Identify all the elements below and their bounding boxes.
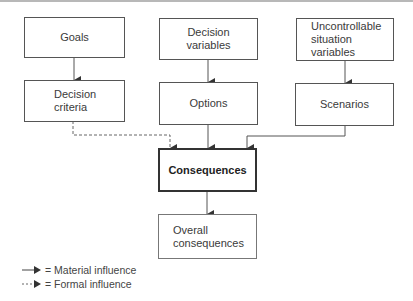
node-consequences-label: Consequences xyxy=(168,164,246,177)
legend-formal: = Formal influence xyxy=(22,278,132,290)
node-uncontrollable-situation-variables: Uncontrollable situation variables xyxy=(296,18,394,61)
node-goals: Goals xyxy=(24,17,125,58)
node-options: Options xyxy=(159,82,258,125)
material-arrow-icon xyxy=(22,265,42,275)
node-options-label: Options xyxy=(190,97,228,110)
node-overall-consequences-label: Overall consequences xyxy=(173,224,244,250)
legend-formal-label: = Formal influence xyxy=(45,278,132,290)
node-overall-consequences: Overall consequences xyxy=(158,214,257,259)
node-decision-criteria: Decision criteria xyxy=(24,80,125,122)
formal-arrow-icon xyxy=(22,279,42,289)
node-decision-variables: Decision variables xyxy=(159,18,258,60)
node-scenarios: Scenarios xyxy=(295,83,394,126)
node-goals-label: Goals xyxy=(60,31,89,44)
node-decision-criteria-label: Decision criteria xyxy=(54,88,96,114)
node-consequences: Consequences xyxy=(158,148,257,192)
legend-material: = Material influence xyxy=(22,264,136,276)
node-scenarios-label: Scenarios xyxy=(320,98,369,111)
node-decision-variables-label: Decision variables xyxy=(186,26,230,52)
node-uncontrollable-label: Uncontrollable situation variables xyxy=(311,20,381,59)
legend-material-label: = Material influence xyxy=(45,264,136,276)
